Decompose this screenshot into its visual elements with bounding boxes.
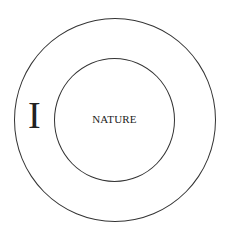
nature-label: NATURE — [54, 112, 175, 126]
self-label: I — [28, 96, 41, 134]
